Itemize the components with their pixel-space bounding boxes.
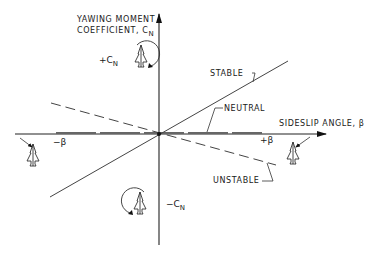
stability-diagram: YAWING MOMENT COEFFICIENT, CN +CN −CN SI… (0, 0, 383, 255)
positive-cn-label: +CN (99, 55, 118, 68)
y-axis-title-line2: COEFFICIENT, CN (77, 26, 154, 38)
x-axis-title: SIDESLIP ANGLE, β (279, 119, 364, 128)
airplane-sideslip-right-icon (287, 142, 299, 164)
unstable-label: UNSTABLE (213, 176, 259, 185)
neutral-label: NEUTRAL (224, 104, 265, 113)
y-axis-title-line1: YAWING MOMENT (76, 15, 155, 24)
stable-label: STABLE (210, 69, 243, 78)
airplane-nose-right-yaw-icon (135, 41, 160, 68)
airplane-sideslip-left-icon (27, 144, 39, 166)
neutral-leader (207, 108, 223, 132)
negative-cn-label: −CN (166, 199, 185, 212)
origin-point (157, 132, 161, 136)
airplane-nose-left-yaw-icon (121, 188, 146, 215)
unstable-leader (262, 163, 273, 181)
positive-beta-label: +β (260, 135, 274, 145)
negative-beta-label: −β (53, 137, 67, 147)
